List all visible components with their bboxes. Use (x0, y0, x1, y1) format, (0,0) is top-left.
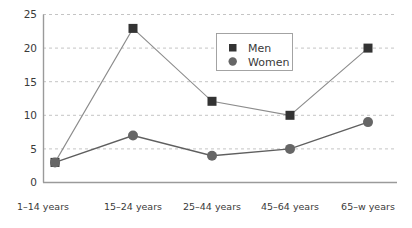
x-tick-label-2: 25–44 years (183, 201, 241, 212)
legend-marker-men (229, 44, 237, 52)
x-tick-label-0: 1–14 years (17, 201, 69, 212)
series-women-point-3 (285, 144, 295, 154)
legend: Men Women (217, 34, 293, 71)
legend-marker-women (229, 57, 237, 65)
series-women-point-1 (128, 131, 138, 141)
series-men-point-3 (286, 111, 295, 120)
legend-label-men: Men (248, 42, 271, 55)
x-tick-label-1: 15–24 years (104, 201, 162, 212)
series-men-point-2 (208, 97, 217, 106)
y-tick-label-5: 5 (30, 143, 37, 155)
x-tick-labels: 1–14 years 15–24 years 25–44 years 45–64… (17, 201, 395, 212)
x-tick-label-4: 65–w years (341, 201, 395, 212)
y-tick-labels: 25 20 15 10 5 0 (24, 8, 37, 188)
y-tick-label-20: 20 (24, 42, 37, 54)
y-tick-label-25: 25 (24, 8, 37, 20)
legend-label-women: Women (248, 56, 289, 69)
series-men (51, 24, 373, 167)
chart-canvas: 25 20 15 10 5 0 1–14 years 15–24 years (0, 0, 412, 228)
series-women-point-4 (363, 117, 373, 127)
series-women-point-0 (50, 157, 60, 167)
series-men-point-4 (364, 44, 373, 53)
line-chart: 25 20 15 10 5 0 1–14 years 15–24 years (0, 0, 412, 228)
y-tick-label-0: 0 (30, 176, 37, 188)
series-men-point-1 (129, 24, 138, 33)
y-tick-label-10: 10 (24, 109, 37, 121)
y-tick-label-15: 15 (24, 76, 37, 88)
series-women-point-2 (207, 151, 217, 161)
x-tick-label-3: 45–64 years (261, 201, 319, 212)
series-women (50, 117, 373, 167)
